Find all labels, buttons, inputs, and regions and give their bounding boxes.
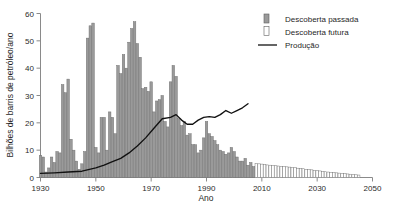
future-discovery-bar [280,166,283,177]
future-discovery-bar [319,171,322,178]
y-tick-label: 10 [25,146,34,155]
past-discovery-bar [92,23,95,177]
x-tick-label: 2050 [364,184,382,193]
future-discovery-bar [266,165,269,178]
past-discovery-bar [142,89,145,178]
past-discovery-bar [125,68,128,177]
legend-swatch-descoberta-futura [264,27,269,36]
future-discovery-bar [321,171,324,177]
y-tick-label: 30 [25,92,34,101]
past-discovery-bar [252,167,255,178]
past-discovery-bar [117,65,120,177]
future-discovery-bar [305,169,308,177]
future-discovery-bar [269,165,272,177]
past-discovery-bar [161,96,164,178]
past-discovery-bar [230,147,233,177]
past-discovery-bars [39,22,255,178]
x-tick-label: 2030 [308,184,326,193]
chart-legend: Descoberta passada Descoberta futura Pro… [258,14,359,50]
x-tick-label: 1930 [32,184,50,193]
y-tick-group: 0102030405060 [25,10,40,183]
past-discovery-bar [169,82,172,178]
future-discovery-bar [310,170,313,178]
legend-label-descoberta-futura: Descoberta futura [285,28,349,37]
x-axis: 1930195019701990201020302050 Ano [32,178,382,204]
y-tick-label: 60 [25,10,34,19]
past-discovery-bar [172,65,175,177]
future-discovery-bar [308,170,311,178]
future-discovery-bar [346,174,349,178]
past-discovery-bar [236,157,239,178]
future-discovery-bar [316,171,319,178]
chart-canvas: 0102030405060 Bilhões de barris de petró… [0,0,401,215]
past-discovery-bar [89,26,92,178]
past-discovery-bar [191,145,194,178]
future-discovery-bar [283,167,286,178]
past-discovery-bar [72,150,75,177]
past-discovery-bar [42,157,45,178]
past-discovery-bar [97,153,100,178]
past-discovery-bar [108,112,111,178]
future-discovery-bar [288,167,291,177]
past-discovery-bar [100,117,103,177]
past-discovery-bar [244,158,247,177]
past-discovery-bar [139,57,142,177]
past-discovery-bar [238,161,241,177]
past-discovery-bar [64,93,67,178]
future-discovery-bar [335,173,338,178]
past-discovery-bar [202,138,205,178]
past-discovery-bar [128,42,131,177]
past-discovery-bar [180,126,183,178]
past-discovery-bar [56,152,59,178]
y-axis: 0102030405060 Bilhões de barris de petró… [5,10,41,183]
past-discovery-bar [164,121,167,177]
future-discovery-bar [332,173,335,178]
past-discovery-bar [103,117,106,177]
past-discovery-bar [144,87,147,177]
y-tick-label: 40 [25,64,34,73]
x-tick-label: 1950 [87,184,105,193]
past-discovery-bar [78,169,81,177]
y-tick-label: 20 [25,119,34,128]
x-tick-group: 1930195019701990201020302050 [32,178,382,194]
past-discovery-bar [61,85,64,178]
past-discovery-bar [216,145,219,178]
past-discovery-bar [175,76,178,177]
past-discovery-bar [155,101,158,178]
past-discovery-bar [39,156,42,178]
past-discovery-bar [111,117,114,177]
past-discovery-bar [219,150,222,177]
past-discovery-bar [222,152,225,178]
past-discovery-bar [233,152,236,178]
x-tick-label: 1970 [142,184,160,193]
past-discovery-bar [50,157,53,178]
past-discovery-bar [122,55,125,178]
past-discovery-bar [166,127,169,178]
future-discovery-bar [324,172,327,178]
past-discovery-bar [225,154,228,177]
x-axis-title: Ano [198,193,213,203]
past-discovery-bar [75,161,78,177]
past-discovery-bar [83,152,86,178]
past-discovery-bar [178,119,181,178]
future-discovery-bar [291,167,294,177]
past-discovery-bar [136,44,139,178]
past-discovery-bar [205,121,208,177]
future-discovery-bar [327,172,330,177]
future-discovery-bar [338,173,341,177]
future-discovery-bar [299,168,302,177]
past-discovery-bar [197,153,200,178]
legend-label-producao: Produção [285,41,320,50]
future-discovery-bar [344,174,347,178]
y-tick-label: 0 [30,174,35,183]
past-discovery-bar [59,153,62,178]
future-discovery-bar [297,168,300,177]
past-discovery-bar [183,121,186,177]
y-tick-label: 50 [25,37,34,46]
future-discovery-bar [258,164,261,178]
past-discovery-bar [119,74,122,178]
future-discovery-bar [277,166,280,177]
future-discovery-bar [302,169,305,178]
x-tick-label: 1990 [198,184,216,193]
past-discovery-bar [95,147,98,177]
